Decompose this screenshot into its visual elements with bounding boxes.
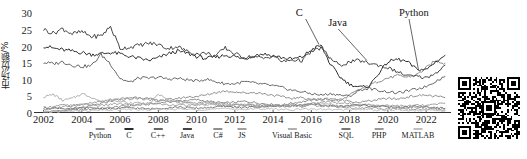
legend-label: Java [180,131,194,140]
legend-label: PHP [372,131,387,140]
y-axis-ticks: 051015202530 [14,10,32,113]
chart-figure: 市场份额/% 051015202530 20022004200620082010… [0,0,527,159]
legend-item[interactable]: C# [213,128,222,140]
qr-code-image [458,77,520,139]
legend-swatch-icon [153,128,162,130]
chart-legend: PythonCC++JavaC#JSVisual BasicSQLPHPMATL… [34,128,451,154]
y-tick-label: 20 [22,41,33,52]
legend-item[interactable]: C [125,128,134,140]
legend-item[interactable]: SQL [338,128,353,140]
x-tick-label: 2010 [186,114,207,125]
x-tick-label: 2020 [377,114,398,125]
legend-label: Python [89,131,112,140]
y-tick-label: 15 [22,58,33,69]
y-tick-label: 5 [27,91,32,102]
x-tick-label: 2004 [71,114,92,125]
legend-item[interactable]: Visual Basic [272,128,312,140]
series-line [44,53,446,97]
annotation-label-c: C [296,7,303,18]
x-tick-label: 2006 [110,114,131,125]
y-tick-label: 30 [22,8,33,19]
legend-swatch-icon [125,128,134,130]
y-tick-label: 10 [22,74,33,85]
legend-item[interactable]: PHP [372,128,387,140]
y-axis-title: 市场份额/% [1,22,14,108]
legend-swatch-icon [375,128,384,130]
qr-code[interactable] [458,77,520,139]
chart-lines [34,10,451,113]
legend-swatch-icon [95,128,104,130]
legend-item[interactable]: MATLAB [402,128,435,140]
series-line [44,26,446,78]
legend-item[interactable]: Python [89,128,112,140]
legend-label: Visual Basic [272,131,312,140]
x-tick-label: 2008 [148,114,169,125]
legend-swatch-icon [183,128,192,130]
legend-swatch-icon [288,128,297,130]
x-tick-label: 2012 [224,114,245,125]
legend-label: C [125,131,134,140]
x-axis-ticks: 2002200420062008201020122014201620182020… [34,114,451,128]
legend-swatch-icon [342,128,351,130]
legend-label: SQL [338,131,353,140]
y-tick-label: 0 [27,108,32,119]
x-tick-label: 2016 [301,114,322,125]
legend-item[interactable]: C++ [151,128,165,140]
legend-swatch-icon [238,128,247,130]
legend-swatch-icon [413,128,422,130]
annotation-label-java: Java [328,17,347,28]
annotation-label-python: Python [399,7,429,18]
y-tick-label: 25 [22,24,33,35]
legend-item[interactable]: JS [238,128,247,140]
x-tick-label: 2018 [339,114,360,125]
plot-area [34,10,451,113]
legend-label: C++ [151,131,165,140]
legend-label: JS [238,131,247,140]
legend-label: MATLAB [402,131,435,140]
legend-swatch-icon [214,128,223,130]
legend-label: C# [213,131,222,140]
legend-item[interactable]: Java [180,128,194,140]
x-tick-label: 2022 [416,114,437,125]
x-tick-label: 2002 [33,114,54,125]
x-tick-label: 2014 [263,114,284,125]
